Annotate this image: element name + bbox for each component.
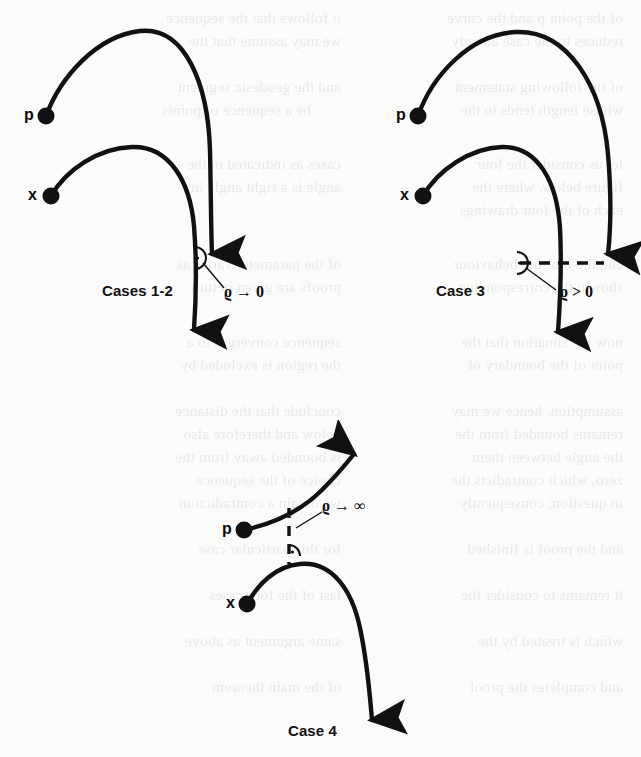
endpoint-dot-x-cases-1-2	[43, 188, 60, 205]
endpoint-dot-p-case-3	[410, 108, 427, 125]
endpoint-dots-layer	[0, 0, 641, 757]
endpoint-dot-p-case-4	[236, 522, 253, 539]
endpoint-dot-x-case-4	[239, 596, 256, 613]
figure-root: of the point p and the curveit follows t…	[0, 0, 641, 757]
endpoint-dot-p-cases-1-2	[38, 108, 55, 125]
endpoint-dot-x-case-3	[415, 188, 432, 205]
